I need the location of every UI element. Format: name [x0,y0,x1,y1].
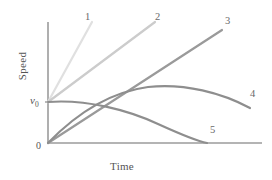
curve-4-path [48,86,250,143]
y-axis-label: Speed [16,43,28,89]
speed-time-chart: Speed Time v0 0 1 2 3 4 5 [0,0,272,180]
y-axis-tick-v0: v0 [30,94,39,109]
curve-label-5: 5 [210,124,215,135]
curve-label-3: 3 [225,15,230,26]
curve-label-1: 1 [85,11,90,22]
curve-3-line [48,30,222,143]
chart-plot-area [0,0,272,180]
curve-2-line [48,22,155,102]
origin-label: 0 [36,140,41,151]
curve-label-4: 4 [250,88,255,99]
curve-label-2: 2 [155,11,160,22]
curve-1-line [48,22,92,102]
v0-subscript: 0 [35,100,39,109]
x-axis-label: Time [110,160,134,172]
